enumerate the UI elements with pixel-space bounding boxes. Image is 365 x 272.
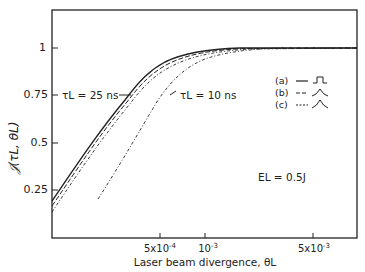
x-tick-label: 5x10-3 xyxy=(298,242,330,254)
legend-key: (b) xyxy=(275,87,288,98)
curve-c-25ns xyxy=(52,48,357,212)
legend-key: (a) xyxy=(275,75,288,86)
triangular-pulse-icon xyxy=(312,89,328,96)
curve-b-25ns xyxy=(52,48,357,206)
curve-a-25ns xyxy=(52,48,357,201)
y-tick-label: 0.75 xyxy=(24,88,49,101)
y-tick-label: 1 xyxy=(39,41,46,54)
y-tick-label: 0.25 xyxy=(24,183,49,196)
legend-key: (c) xyxy=(275,99,288,110)
annotation-tau-25ns: τL = 25 ns xyxy=(62,89,118,101)
annotation-energy: EL = 0.5J xyxy=(258,171,306,183)
gaussian-pulse-icon xyxy=(312,100,328,108)
plot-frame xyxy=(52,10,357,238)
y-axis-label: 𝒥(τL, θL) xyxy=(7,122,21,176)
legend: (a) (b) (c) xyxy=(275,75,328,110)
rectangular-pulse-icon xyxy=(313,77,327,83)
x-axis-label: Laser beam divergence, θL xyxy=(134,256,276,268)
x-axis xyxy=(160,233,313,238)
annotation-leader xyxy=(170,91,176,95)
x-tick-label: 10-3 xyxy=(198,242,218,254)
curve-c-10ns xyxy=(98,48,357,199)
curves xyxy=(52,48,357,212)
annotation-tau-10ns: τL = 10 ns xyxy=(180,89,236,101)
y-axis xyxy=(52,48,58,190)
x-tick-label: 5x10-4 xyxy=(144,242,177,254)
y-tick-label: 0.5 xyxy=(31,136,49,149)
chart: 1 0.75 0.5 0.25 5x10-4 10-3 5x10-3 Laser… xyxy=(0,0,365,272)
